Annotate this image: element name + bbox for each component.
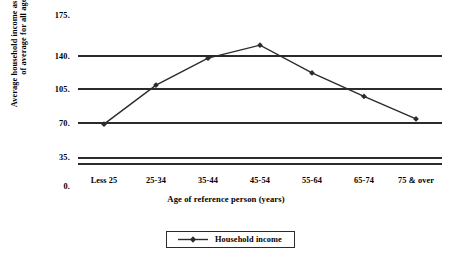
y-tick-label-70: 70. — [59, 119, 70, 128]
y-axis-title: Average household income as perentage of… — [2, 0, 38, 125]
y-tick-label-35: 35. — [59, 153, 70, 162]
legend-line-marker-icon — [177, 235, 209, 244]
x-axis-tick-labels: Less 2525-3435-4445-5455-6465-7475 & ove… — [78, 176, 442, 190]
y-axis-tick-labels: 175. 140. 105. 70. 35. 0. — [38, 0, 70, 180]
line-chart: Average household income as perentage of… — [0, 0, 452, 261]
y-tick-label-140: 140. — [55, 52, 70, 61]
y-tick-label-0: 0. — [63, 182, 70, 191]
data-point — [257, 42, 263, 48]
series-markers — [101, 42, 419, 127]
series-line — [104, 45, 416, 124]
x-tick-label: 75 & over — [398, 176, 434, 185]
y-tick-label-175: 175. — [55, 11, 70, 20]
data-point — [361, 93, 367, 99]
data-point — [413, 116, 419, 122]
x-tick-label: 65-74 — [354, 176, 374, 185]
x-tick-label: 35-44 — [198, 176, 218, 185]
x-tick-label: 25-34 — [146, 176, 166, 185]
series-household-income — [78, 13, 442, 165]
data-point — [309, 70, 315, 76]
y-axis-title-line-2: of average for all ages — [20, 0, 29, 75]
legend-label-household-income: Household income — [215, 235, 282, 244]
y-tick-label-105: 105. — [55, 85, 70, 94]
chart-legend: Household income — [166, 231, 295, 248]
x-tick-label: Less 25 — [91, 176, 118, 185]
x-tick-label: 45-54 — [250, 176, 270, 185]
x-axis-title: Age of reference person (years) — [0, 194, 452, 204]
plot-area — [78, 13, 442, 165]
x-tick-label: 55-64 — [302, 176, 322, 185]
data-point — [205, 55, 211, 61]
